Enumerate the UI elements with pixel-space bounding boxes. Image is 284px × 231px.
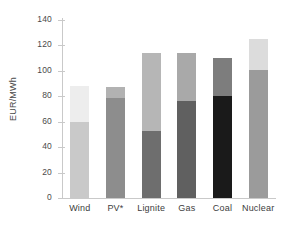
bar-group xyxy=(213,0,232,198)
chart-container: EUR/MWh 020406080100120140 WindPV*Lignit… xyxy=(0,0,284,231)
x-axis-label-gas: Gas xyxy=(169,203,205,213)
bar-group xyxy=(177,0,196,198)
x-axis-label-coal: Coal xyxy=(205,203,241,213)
bar-segment-upper xyxy=(106,87,125,97)
y-axis-tick-label: 100 xyxy=(37,65,52,76)
x-axis-label-pv: PV* xyxy=(98,203,134,213)
bar-group xyxy=(70,0,89,198)
bar-segment-lower xyxy=(249,70,268,198)
y-axis-tick-label: 80 xyxy=(42,90,52,101)
x-axis-label-nuclear: Nuclear xyxy=(240,203,276,213)
bar-segment-upper xyxy=(213,58,232,96)
y-axis-tick-label: 140 xyxy=(37,14,52,25)
bar-group xyxy=(249,0,268,198)
y-axis-tick-mark xyxy=(58,198,65,199)
bar-pv xyxy=(106,87,125,198)
y-axis-tick-label: 40 xyxy=(42,141,52,152)
bar-group xyxy=(142,0,161,198)
bar-coal xyxy=(213,58,232,198)
y-axis-tick-label: 120 xyxy=(37,39,52,50)
bar-wind xyxy=(70,86,89,198)
bar-lignite xyxy=(142,53,161,198)
bar-nuclear xyxy=(249,39,268,198)
bar-segment-lower xyxy=(177,101,196,198)
bar-gas xyxy=(177,53,196,198)
x-axis-labels: WindPV*LigniteGasCoalNuclear xyxy=(62,203,276,223)
y-axis-title-label: EUR/MWh xyxy=(8,77,18,121)
y-axis-title: EUR/MWh xyxy=(6,0,20,198)
bar-group xyxy=(106,0,125,198)
bar-segment-upper xyxy=(249,39,268,70)
bar-segment-lower xyxy=(106,98,125,198)
bar-segment-upper xyxy=(70,86,89,122)
bar-segment-lower xyxy=(213,96,232,198)
bar-segment-upper xyxy=(177,53,196,101)
y-axis-tick-label: 20 xyxy=(42,167,52,178)
x-axis-label-wind: Wind xyxy=(62,203,98,213)
bar-segment-lower xyxy=(142,131,161,198)
bar-segment-lower xyxy=(70,122,89,198)
bar-segment-upper xyxy=(142,53,161,131)
x-axis-line xyxy=(62,198,276,199)
x-axis-label-lignite: Lignite xyxy=(133,203,169,213)
y-axis-tick-label: 60 xyxy=(42,116,52,127)
bars-layer xyxy=(62,0,276,198)
y-axis-tick-label: 0 xyxy=(47,192,52,203)
